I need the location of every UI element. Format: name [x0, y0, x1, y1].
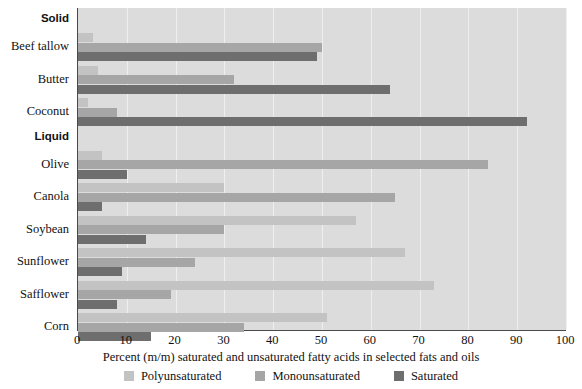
gridline	[566, 8, 567, 330]
legend-swatch-icon	[124, 371, 134, 381]
x-tick-label: 70	[412, 333, 425, 347]
x-tick-label: 60	[364, 333, 377, 347]
legend-item-polyunsaturated: Polyunsaturated	[124, 369, 222, 383]
x-tick-label: 20	[168, 333, 181, 347]
bar-polyunsaturated-soybean	[78, 216, 356, 225]
legend-label: Polyunsaturated	[141, 369, 222, 383]
bar-saturated-beef-tallow	[78, 52, 317, 61]
legend-label: Monounsaturated	[272, 369, 359, 383]
x-tick-label: 100	[556, 333, 575, 347]
x-tick-label: 90	[510, 333, 523, 347]
bar-saturated-soybean	[78, 235, 146, 244]
y-axis-label-beef-tallow: Beef tallow	[11, 40, 69, 53]
x-tick-label: 40	[266, 333, 279, 347]
bar-group	[78, 180, 566, 213]
bar-monounsaturated-sunflower	[78, 258, 195, 267]
group-heading-liquid: Liquid	[35, 130, 70, 143]
bar-polyunsaturated-butter	[78, 66, 98, 75]
bar-monounsaturated-olive	[78, 160, 488, 169]
bar-saturated-safflower	[78, 300, 117, 309]
bar-group	[78, 245, 566, 278]
bar-group	[78, 95, 566, 128]
x-tick-label: 50	[315, 333, 328, 347]
bar-monounsaturated-butter	[78, 75, 234, 84]
bar-polyunsaturated-sunflower	[78, 248, 405, 257]
bar-polyunsaturated-coconut	[78, 98, 88, 107]
bar-monounsaturated-safflower	[78, 290, 171, 299]
bar-polyunsaturated-beef-tallow	[78, 33, 93, 42]
legend-swatch-icon	[394, 371, 404, 381]
bar-group	[78, 63, 566, 96]
x-axis-title: Percent (m/m) saturated and unsaturated …	[0, 350, 582, 365]
bar-saturated-coconut	[78, 117, 527, 126]
bar-polyunsaturated-safflower	[78, 281, 434, 290]
bar-polyunsaturated-canola	[78, 183, 224, 192]
legend-item-saturated: Saturated	[394, 369, 458, 383]
bar-monounsaturated-canola	[78, 193, 395, 202]
bar-group	[78, 213, 566, 246]
legend-swatch-icon	[255, 371, 265, 381]
y-axis-label-safflower: Safflower	[20, 288, 69, 301]
group-heading-solid: Solid	[41, 12, 69, 25]
y-axis-label-soybean: Soybean	[26, 223, 69, 236]
plot-area	[77, 8, 566, 331]
y-axis-label-butter: Butter	[38, 73, 69, 86]
x-tick-label: 30	[217, 333, 230, 347]
bar-monounsaturated-soybean	[78, 225, 224, 234]
bar-group	[78, 278, 566, 311]
bar-group	[78, 148, 566, 181]
y-axis-label-sunflower: Sunflower	[17, 255, 69, 268]
legend-item-monounsaturated: Monounsaturated	[255, 369, 359, 383]
bar-saturated-olive	[78, 170, 127, 179]
x-axis-ticks: 0102030405060708090100	[77, 331, 566, 351]
bar-saturated-sunflower	[78, 267, 122, 276]
legend-label: Saturated	[411, 369, 458, 383]
bar-monounsaturated-beef-tallow	[78, 43, 322, 52]
y-axis-label-coconut: Coconut	[27, 105, 69, 118]
y-axis-label-corn: Corn	[44, 320, 69, 333]
fatty-acid-bar-chart: SolidBeef tallowButterCoconutLiquidOlive…	[0, 0, 582, 389]
bar-polyunsaturated-corn	[78, 313, 327, 322]
chart-legend: PolyunsaturatedMonounsaturatedSaturated	[0, 369, 582, 383]
y-axis-label-canola: Canola	[34, 190, 69, 203]
x-tick-label: 10	[120, 333, 133, 347]
bar-group	[78, 30, 566, 63]
bar-polyunsaturated-olive	[78, 151, 102, 160]
x-tick-label: 80	[461, 333, 474, 347]
bar-saturated-canola	[78, 202, 102, 211]
y-axis-label-olive: Olive	[41, 158, 69, 171]
x-tick-label: 0	[74, 333, 80, 347]
y-axis-labels: SolidBeef tallowButterCoconutLiquidOlive…	[0, 8, 73, 330]
bar-saturated-butter	[78, 85, 390, 94]
bar-monounsaturated-coconut	[78, 108, 117, 117]
